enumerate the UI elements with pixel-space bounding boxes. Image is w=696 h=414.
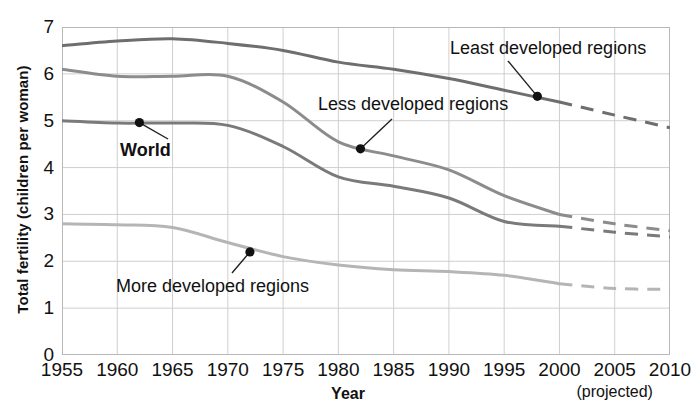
annotation-marker-dot [356,144,365,153]
x-tick-label: 1965 [143,360,203,379]
annotation-least-developed-regions: Least developed regions [450,39,646,57]
x-tick-label: 1960 [87,360,147,379]
x-tick-label: 1955 [32,360,92,379]
x-tick-label: 1980 [308,360,368,379]
series-line-solid [62,121,559,226]
y-tick-label: 7 [28,17,54,36]
annotation-more-developed-regions: More developed regions [116,277,309,295]
y-tick-label: 2 [28,251,54,270]
series-line-solid [62,224,559,284]
plot-area: Least developed regions Less developed r… [62,27,670,355]
x-tick-label: 1990 [419,360,479,379]
x-tick-label: 1985 [364,360,424,379]
x-tick-label: 1975 [253,360,313,379]
x-axis-ticks: 1955196019651970197519801985199019952000… [0,360,696,384]
annotation-marker-dot [245,247,254,256]
x-tick-label: 2000 [529,360,589,379]
x-axis-title: Year [0,385,696,403]
annotation-less-developed-regions: Less developed regions [318,95,508,113]
series-world [62,121,670,237]
annotation-marker-dot [135,118,144,127]
x-tick-label: 2005 [585,360,645,379]
annotation-leader-line [139,123,168,139]
y-axis-ticks: 01234567 [20,0,54,414]
y-tick-label: 4 [28,158,54,177]
annotation-world: World [120,141,171,159]
x-tick-label: 1970 [198,360,258,379]
y-tick-label: 6 [28,64,54,83]
y-tick-label: 3 [28,204,54,223]
fertility-line-chart: Total fertility (children per woman) 012… [0,0,696,414]
y-tick-label: 1 [28,298,54,317]
annotation-leader-line [360,119,392,149]
annotation-marker-dot [533,92,542,101]
x-tick-label: 1995 [474,360,534,379]
y-tick-label: 5 [28,111,54,130]
plot-svg [62,27,670,355]
x-tick-label: 2010 [640,360,696,379]
